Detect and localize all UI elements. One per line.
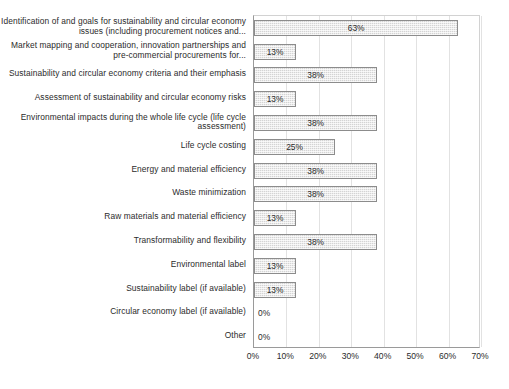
- category-axis: Identification of and goals for sustaina…: [0, 14, 250, 348]
- bar-value-label: 38%: [254, 234, 377, 250]
- category-label: Waste minimization: [0, 188, 246, 198]
- category-label: Assessment of sustainability and circula…: [0, 93, 246, 103]
- bar-value-label: 38%: [254, 67, 377, 83]
- bar-row: 38%: [254, 67, 481, 83]
- bar-row: 38%: [254, 186, 481, 202]
- bar-value-label: 63%: [254, 20, 458, 36]
- bar-value-label: 0%: [254, 305, 270, 321]
- bar-value-label: 13%: [254, 91, 296, 107]
- category-label: Life cycle costing: [0, 141, 246, 151]
- category-label: Sustainability label (if available): [0, 284, 246, 294]
- bar-value-label: 25%: [254, 139, 335, 155]
- category-label: Sustainability and circular economy crit…: [0, 69, 246, 79]
- bar-value-label: 0%: [254, 329, 270, 345]
- bar-value-label: 13%: [254, 210, 296, 226]
- bar-row: 0%: [254, 305, 481, 321]
- bar-row: 38%: [254, 163, 481, 179]
- bar-value-label: 38%: [254, 115, 377, 131]
- gridline: [481, 16, 482, 347]
- bar-value-label: 38%: [254, 186, 377, 202]
- category-label: Circular economy label (if available): [0, 307, 246, 317]
- category-label: Transformability and flexibility: [0, 236, 246, 246]
- bar-row: 13%: [254, 91, 481, 107]
- category-label: Raw materials and material efficiency: [0, 212, 246, 222]
- bar-row: 63%: [254, 20, 481, 36]
- value-tick-label: 70%: [460, 350, 500, 362]
- value-axis: 0%10%20%30%40%50%60%70%: [253, 350, 480, 366]
- bar-row: 38%: [254, 115, 481, 131]
- bar-row: 13%: [254, 44, 481, 60]
- bar-chart: Identification of and goals for sustaina…: [0, 0, 509, 389]
- plot-area: 63%13%38%13%38%25%38%38%13%38%13%13%0%0%: [253, 15, 480, 348]
- category-label: Environmental impacts during the whole l…: [0, 113, 246, 132]
- bar-value-label: 38%: [254, 163, 377, 179]
- bar-value-label: 13%: [254, 282, 296, 298]
- bar-row: 25%: [254, 139, 481, 155]
- bar-row: 13%: [254, 282, 481, 298]
- bar-value-label: 13%: [254, 44, 296, 60]
- bar-row: 38%: [254, 234, 481, 250]
- bar-value-label: 13%: [254, 258, 296, 274]
- bar-row: 13%: [254, 258, 481, 274]
- category-label: Identification of and goals for sustaina…: [0, 17, 246, 36]
- category-label: Environmental label: [0, 260, 246, 270]
- category-label: Market mapping and cooperation, innovati…: [0, 41, 246, 60]
- bar-row: 13%: [254, 210, 481, 226]
- category-label: Other: [0, 331, 246, 341]
- bar-row: 0%: [254, 329, 481, 345]
- category-label: Energy and material efficiency: [0, 165, 246, 175]
